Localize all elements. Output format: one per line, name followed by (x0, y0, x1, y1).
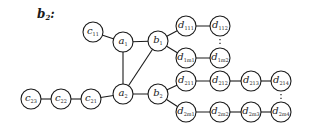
node-d1m1: d1m1 (176, 48, 196, 68)
node-d212: d212 (210, 71, 230, 91)
node-d111: d111 (176, 16, 196, 36)
node-a1: a1 (113, 32, 133, 52)
node-b1: b1 (148, 31, 168, 51)
nodes: c11a1b1d111d112d1m1d1m2a2b2d211d212d213d… (21, 16, 291, 122)
node-a2: a2 (113, 84, 133, 104)
node-d214: d214 (271, 71, 291, 91)
title-base: b (37, 7, 45, 21)
node-d2m4: d2m4 (271, 102, 291, 122)
node-d2m3: d2m3 (241, 102, 261, 122)
node-c22: c22 (51, 89, 71, 109)
node-d213: d213 (241, 71, 261, 91)
node-c23: c23 (21, 89, 41, 109)
title-suffix: : (50, 7, 54, 21)
svg-text:b2:: b2: (37, 7, 55, 22)
node-d211: d211 (176, 71, 196, 91)
node-b2: b2 (148, 84, 168, 104)
node-d112: d112 (210, 16, 230, 36)
node-d2m1: d2m1 (176, 102, 196, 122)
node-d1m2: d1m2 (210, 48, 230, 68)
node-c11: c11 (83, 22, 103, 42)
diagram-title: b2: (37, 7, 55, 22)
node-c21: c21 (81, 89, 101, 109)
node-d2m2: d2m2 (210, 102, 230, 122)
